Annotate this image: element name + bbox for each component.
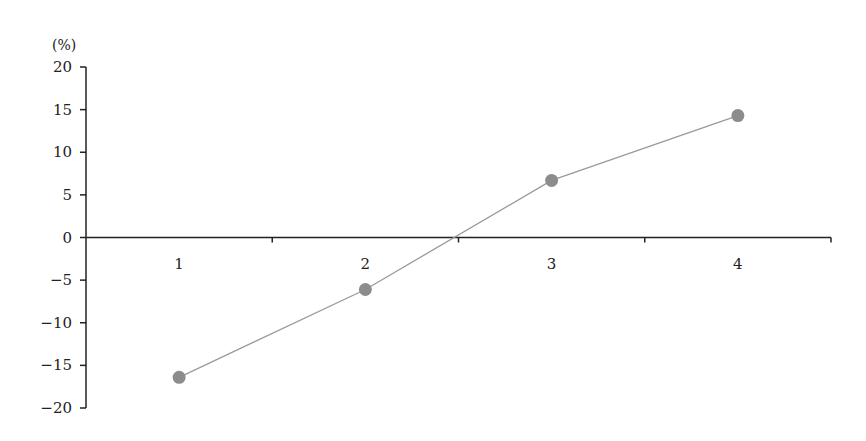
y-tick-label: 0 xyxy=(62,229,72,247)
data-point-marker xyxy=(173,371,186,384)
y-tick-label: −5 xyxy=(50,271,72,289)
line-chart: (%) 20151050−5−10−15−20 1234 xyxy=(0,0,866,441)
y-tick-label: −20 xyxy=(40,399,72,417)
x-tick-label: 3 xyxy=(547,255,557,273)
y-tick-label: −10 xyxy=(40,314,72,332)
y-axis: 20151050−5−10−15−20 xyxy=(40,58,86,417)
y-tick-label: 20 xyxy=(53,58,72,76)
data-point-marker xyxy=(545,174,558,187)
y-tick-label: 15 xyxy=(53,101,72,119)
data-point-marker xyxy=(731,109,744,122)
x-axis: 1234 xyxy=(86,238,831,273)
x-tick-label: 4 xyxy=(733,255,743,273)
data-point-marker xyxy=(359,283,372,296)
y-tick-label: 10 xyxy=(53,143,72,161)
data-series xyxy=(173,109,745,384)
x-tick-label: 1 xyxy=(174,255,184,273)
series-line xyxy=(179,116,738,378)
y-axis-unit-label: (%) xyxy=(52,37,76,53)
x-tick-label: 2 xyxy=(361,255,371,273)
y-tick-label: −15 xyxy=(40,356,72,374)
y-tick-label: 5 xyxy=(62,186,72,204)
